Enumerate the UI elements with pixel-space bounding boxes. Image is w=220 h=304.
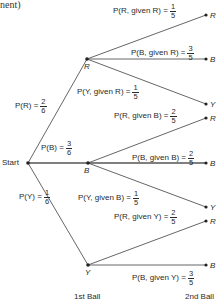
- denominator: 6: [67, 149, 71, 157]
- prob-b-given-r: P(B, given R) = 35: [131, 45, 194, 61]
- denominator: 5: [133, 93, 137, 101]
- node-second-r-b: B: [210, 55, 215, 64]
- prob-text: P(R, given Y) =: [114, 213, 168, 221]
- prob-text: P(R) =: [15, 102, 38, 110]
- node-second-b-b: B: [210, 159, 215, 168]
- prob-b-given-b: P(B, given B) = 25: [132, 150, 194, 166]
- node-second-b-r: R: [210, 114, 216, 123]
- prob-text: P(B, given R) =: [131, 49, 185, 57]
- prob-first-r: P(R) = 26: [15, 98, 47, 114]
- prob-first-y: P(Y) = 16: [19, 189, 50, 205]
- prob-text: P(Y, given B) =: [78, 194, 131, 202]
- prob-text: P(Y) =: [19, 193, 42, 201]
- start-node-label: Start: [2, 158, 19, 167]
- prob-r-given-r: P(R, given R) = 15: [113, 3, 176, 19]
- prob-r-given-y: P(R, given Y) = 25: [114, 209, 177, 225]
- node-second-y-b: B: [210, 261, 215, 270]
- denominator: 5: [134, 199, 138, 207]
- node-first-b: B: [84, 166, 89, 175]
- first-ball-label: 1st Ball: [74, 292, 100, 301]
- prob-r-given-b: P(R, given B) = 25: [114, 108, 177, 124]
- denominator: 5: [189, 279, 193, 287]
- node-first-y: Y: [85, 268, 90, 277]
- denominator: 5: [171, 12, 175, 20]
- second-ball-label: 2nd Ball: [185, 292, 214, 301]
- node-second-b-y: Y: [210, 203, 215, 212]
- node-second-r-y: Y: [210, 100, 215, 109]
- prob-text: P(B) =: [41, 144, 64, 152]
- prob-text: P(Y, given R) =: [77, 88, 130, 96]
- node-second-r-r: R: [210, 11, 216, 20]
- denominator: 5: [171, 117, 175, 125]
- prob-text: P(B, given Y) =: [132, 274, 186, 282]
- denominator: 6: [45, 198, 49, 206]
- prob-text: P(R, given B) =: [114, 112, 168, 120]
- denominator: 5: [188, 54, 192, 62]
- prob-y-given-b: P(Y, given B) = 15: [78, 190, 139, 206]
- prob-y-given-r: P(Y, given R) = 15: [77, 84, 139, 100]
- denominator: 5: [171, 218, 175, 226]
- node-first-r: R: [84, 62, 90, 71]
- prob-text: P(R, given R) =: [113, 7, 168, 15]
- denominator: 5: [189, 159, 193, 167]
- prob-first-b: P(B) = 36: [41, 140, 72, 156]
- node-second-y-r: R: [210, 217, 216, 226]
- denominator: 6: [41, 107, 45, 115]
- prob-b-given-y: P(B, given Y) = 35: [132, 270, 194, 286]
- prob-text: P(B, given B) =: [132, 154, 186, 162]
